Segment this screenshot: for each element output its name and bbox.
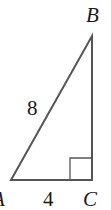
side-label-ac: 4	[43, 187, 54, 210]
vertex-label-c: C	[83, 187, 98, 210]
vertex-label-a: A	[0, 187, 5, 210]
right-angle-marker	[70, 158, 92, 180]
vertex-label-b: B	[86, 3, 99, 27]
side-label-ab: 8	[27, 96, 38, 120]
right-triangle-diagram: B A C 8 4	[0, 0, 111, 210]
